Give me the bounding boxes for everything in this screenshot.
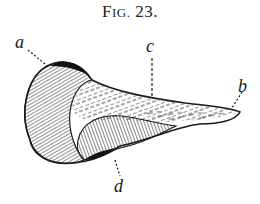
leader-a [28, 50, 50, 68]
label-d: d [114, 176, 123, 197]
label-c: c [146, 36, 154, 57]
label-a: a [15, 32, 24, 53]
leader-d [115, 160, 120, 176]
specimen-illustration [0, 0, 260, 204]
label-b: b [238, 76, 247, 97]
